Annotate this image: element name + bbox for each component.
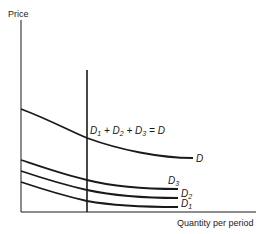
y-axis-label: Price (8, 9, 29, 19)
label-d3: D3 (168, 175, 179, 187)
curve-d3 (21, 160, 178, 189)
curve-d2 (21, 171, 178, 198)
sum-annotation: D1 + D2 + D3 = D (90, 125, 165, 137)
label-d-total: D (196, 153, 203, 164)
market-demand-diagram: Price Quantity per period D1 + D2 + D3 =… (0, 0, 266, 234)
x-axis-label: Quantity per period (177, 218, 254, 228)
curve-d1 (21, 182, 178, 207)
